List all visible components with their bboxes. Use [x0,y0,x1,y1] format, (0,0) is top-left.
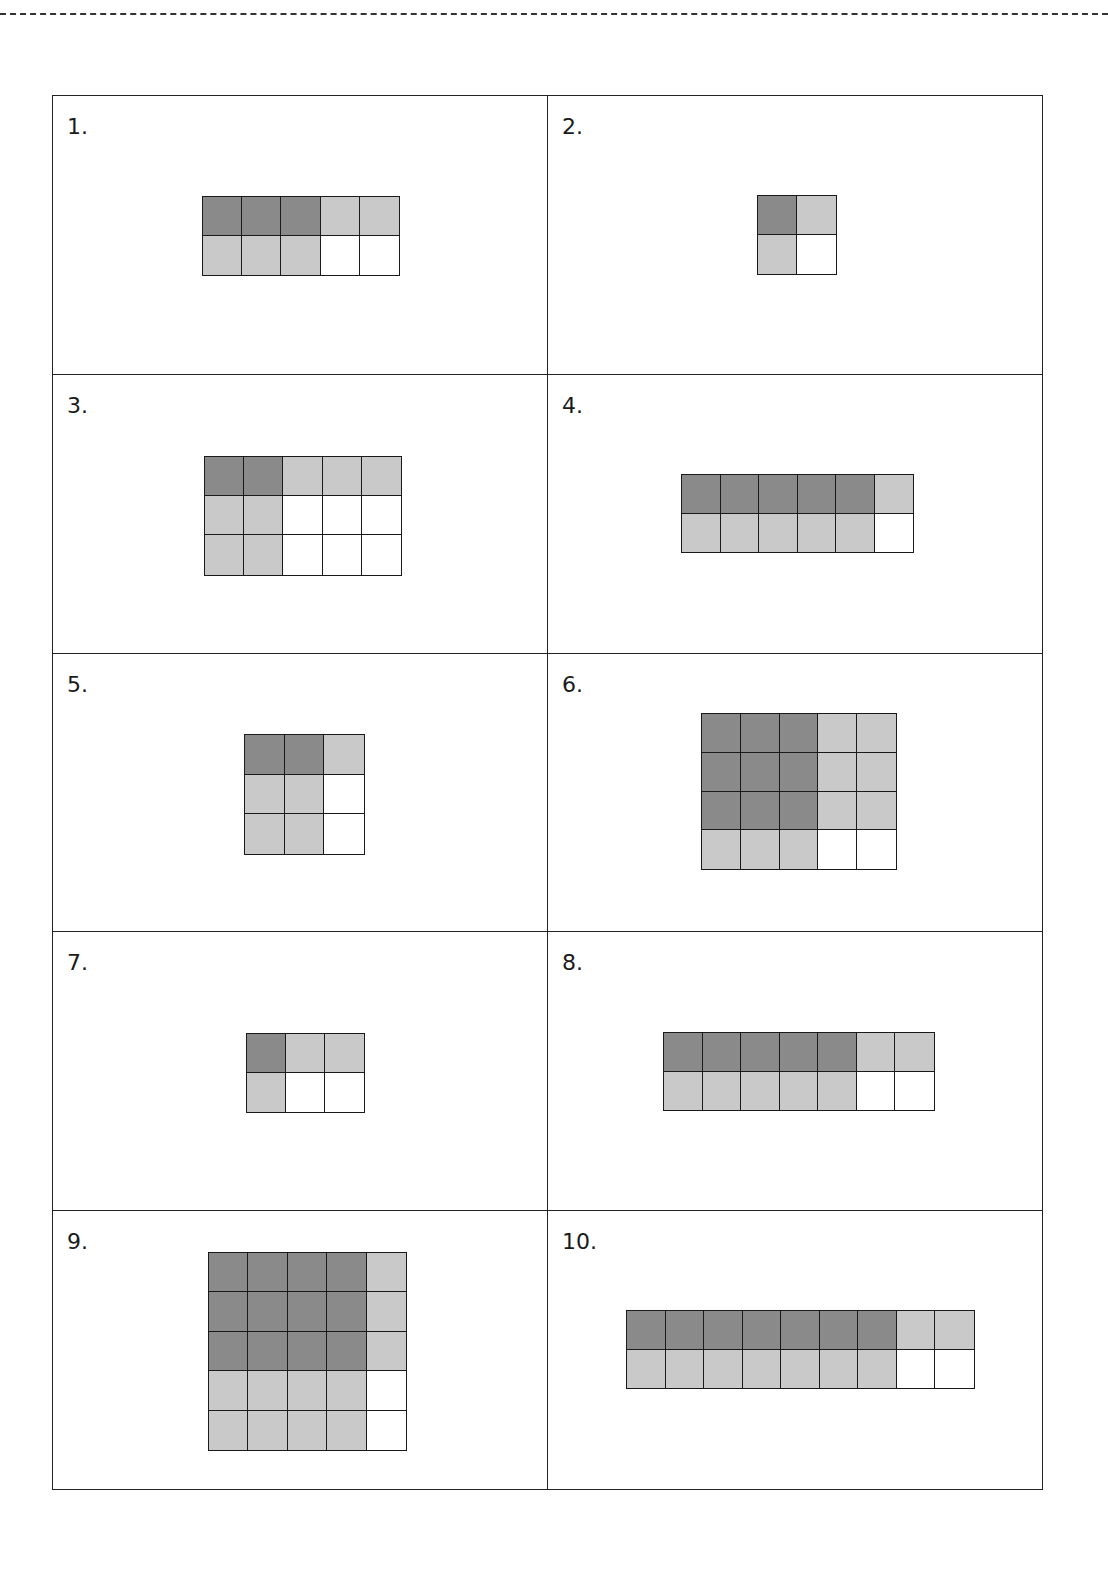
dark-shaded-square [836,475,875,514]
dark-shaded-square [780,714,819,753]
dashed-cut-line [0,13,1108,15]
light-shaded-square [818,792,857,831]
light-shaded-square [875,475,914,514]
light-shaded-square [857,1033,896,1072]
unshaded-square [323,535,362,574]
fraction-grid [202,196,400,276]
dark-shaded-square [288,1292,327,1331]
dark-shaded-square [682,475,721,514]
dark-shaded-square [247,1034,286,1073]
light-shaded-square [209,1411,248,1450]
dark-shaded-square [209,1292,248,1331]
unshaded-square [286,1073,325,1112]
light-shaded-square [286,1034,325,1073]
dark-shaded-square [798,475,837,514]
unshaded-square [895,1072,934,1111]
dark-shaded-square [285,735,325,775]
dark-shaded-square [245,735,285,775]
dark-shaded-square [858,1311,897,1350]
light-shaded-square [248,1411,287,1450]
light-shaded-square [858,1350,897,1389]
light-shaded-square [327,1411,366,1450]
dark-shaded-square [627,1311,666,1350]
dark-shaded-square [288,1253,327,1292]
light-shaded-square [703,1072,742,1111]
dark-shaded-square [327,1253,366,1292]
dark-shaded-square [741,792,780,831]
light-shaded-square [818,1072,857,1111]
light-shaded-square [836,514,875,553]
light-shaded-square [682,514,721,553]
light-shaded-square [935,1311,974,1350]
light-shaded-square [857,714,896,753]
unshaded-square [362,535,401,574]
problem-number: 5. [67,672,88,697]
problem-number: 8. [562,950,583,975]
light-shaded-square [367,1332,406,1371]
light-shaded-square [857,792,896,831]
unshaded-square [362,496,401,535]
dark-shaded-square [780,1033,819,1072]
light-shaded-square [818,714,857,753]
unshaded-square [797,235,836,274]
problem-number: 6. [562,672,583,697]
dark-shaded-square [702,714,741,753]
light-shaded-square [759,514,798,553]
dark-shaded-square [820,1311,859,1350]
dark-shaded-square [327,1292,366,1331]
light-shaded-square [702,830,741,869]
light-shaded-square [285,814,325,854]
unshaded-square [935,1350,974,1389]
light-shaded-square [244,535,283,574]
light-shaded-square [627,1350,666,1389]
light-shaded-square [797,196,836,235]
light-shaded-square [781,1350,820,1389]
dark-shaded-square [741,1033,780,1072]
light-shaded-square [897,1311,936,1350]
fraction-grid [244,734,365,855]
dark-shaded-square [703,1033,742,1072]
unshaded-square [324,775,364,815]
unshaded-square [325,1073,364,1112]
light-shaded-square [325,1034,364,1073]
light-shaded-square [741,1072,780,1111]
light-shaded-square [798,514,837,553]
dark-shaded-square [721,475,760,514]
dark-shaded-square [242,197,281,236]
light-shaded-square [245,814,285,854]
light-shaded-square [203,236,242,275]
fraction-grid [757,195,837,275]
dark-shaded-square [702,792,741,831]
light-shaded-square [367,1292,406,1331]
light-shaded-square [741,830,780,869]
problem-number: 4. [562,393,583,418]
light-shaded-square [780,1072,819,1111]
light-shaded-square [285,775,325,815]
light-shaded-square [281,236,320,275]
dark-shaded-square [248,1332,287,1371]
problem-number: 2. [562,114,583,139]
dark-shaded-square [209,1253,248,1292]
light-shaded-square [721,514,760,553]
fraction-grid [246,1033,365,1113]
dark-shaded-square [288,1332,327,1371]
unshaded-square [367,1371,406,1410]
dark-shaded-square [666,1311,705,1350]
light-shaded-square [743,1350,782,1389]
light-shaded-square [820,1350,859,1389]
light-shaded-square [245,775,285,815]
light-shaded-square [323,457,362,496]
unshaded-square [857,830,896,869]
problem-number: 10. [562,1229,597,1254]
worksheet-table: 1.2.3.4.5.6.7.8.9.10. [52,95,1043,1490]
light-shaded-square [247,1073,286,1112]
light-shaded-square [209,1371,248,1410]
unshaded-square [857,1072,896,1111]
dark-shaded-square [209,1332,248,1371]
dark-shaded-square [244,457,283,496]
dark-shaded-square [758,196,797,235]
fraction-grid [663,1032,935,1111]
light-shaded-square [205,496,244,535]
light-shaded-square [283,457,322,496]
light-shaded-square [857,753,896,792]
